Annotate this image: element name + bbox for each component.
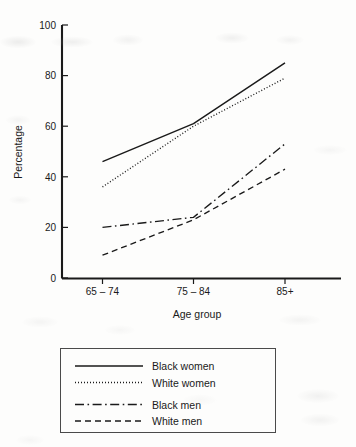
y-axis-tick-labels: 100 80 60 40 20 0 xyxy=(39,20,56,284)
legend-label-black-men: Black men xyxy=(152,399,201,411)
y-axis-title: Percentage xyxy=(12,125,24,179)
x-axis-tick-labels: 65 – 74 75 – 84 85+ xyxy=(86,286,294,297)
x-axis-title: Age group xyxy=(173,308,222,320)
x-tick-label-3: 85+ xyxy=(277,286,294,297)
y-tick-label-80: 80 xyxy=(45,70,57,81)
series-line-white-men xyxy=(103,169,286,255)
line-chart-figure: 100 80 60 40 20 0 65 – 74 75 – 84 85+ Pe… xyxy=(0,0,356,447)
chart-legend: Black women White women Black men White … xyxy=(61,349,276,433)
legend-label-white-men: White men xyxy=(152,415,202,427)
y-tick-label-100: 100 xyxy=(39,20,56,31)
x-tick-label-2: 75 – 84 xyxy=(177,286,211,297)
y-tick-label-20: 20 xyxy=(45,222,57,233)
x-tick-label-1: 65 – 74 xyxy=(86,286,120,297)
legend-label-black-women: Black women xyxy=(152,360,215,372)
y-tick-label-40: 40 xyxy=(45,172,57,183)
y-tick-label-60: 60 xyxy=(45,121,57,132)
series-line-white-women xyxy=(103,78,286,187)
chart-series-group xyxy=(103,63,286,255)
legend-label-white-women: White women xyxy=(152,377,216,389)
series-line-black-women xyxy=(103,63,286,162)
y-tick-label-0: 0 xyxy=(50,273,56,284)
series-line-black-men xyxy=(103,144,286,228)
chart-axes xyxy=(62,25,341,279)
